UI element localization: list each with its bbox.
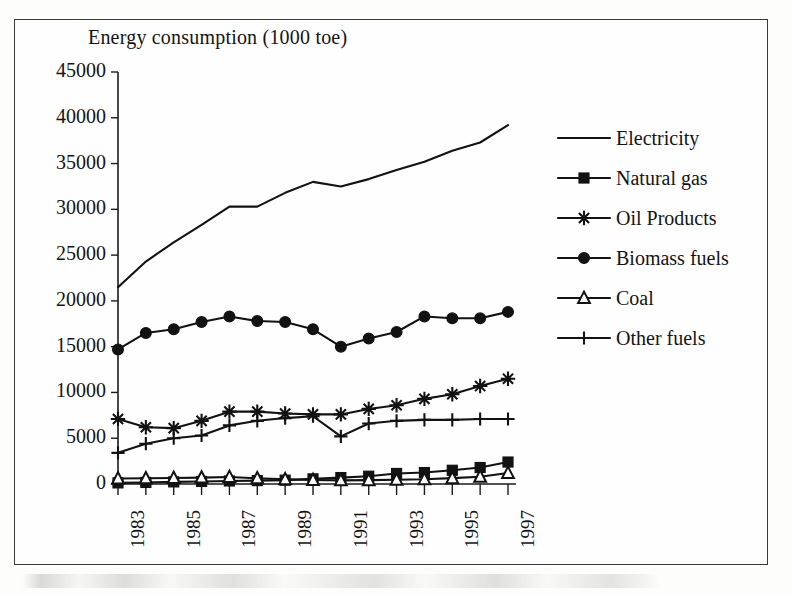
legend-item-label: Electricity — [612, 127, 699, 150]
marker-triangle — [502, 467, 514, 478]
marker-circle — [113, 344, 124, 355]
series-line — [118, 125, 508, 287]
scan-artifact — [22, 574, 662, 588]
y-tick-label: 30000 — [20, 196, 106, 219]
marker-asterisk — [139, 420, 153, 434]
x-tick-label: 1987 — [238, 510, 260, 548]
marker-asterisk — [501, 372, 515, 386]
x-tick-label: 1995 — [461, 510, 483, 548]
marker-asterisk — [389, 398, 403, 412]
marker-circle — [391, 327, 402, 338]
series-oil-products — [111, 372, 515, 436]
series-biomass-fuels — [113, 306, 514, 354]
series-group — [111, 125, 515, 488]
marker-plus — [195, 429, 208, 442]
marker-circle — [308, 324, 319, 335]
marker-circle — [224, 311, 235, 322]
legend-marker-icon — [556, 127, 612, 149]
marker-circle — [419, 311, 430, 322]
legend-item-electricity[interactable]: Electricity — [556, 118, 766, 158]
legend-marker-icon — [556, 327, 612, 349]
marker-circle — [363, 333, 374, 344]
marker-asterisk — [111, 412, 125, 426]
legend-key-icon — [556, 247, 612, 269]
y-tick-label: 40000 — [20, 105, 106, 128]
figure-root: Energy consumption (1000 toe) 0500010000… — [0, 0, 792, 594]
x-tick-label: 1997 — [517, 510, 539, 548]
marker-plus — [501, 412, 514, 425]
marker-circle — [168, 324, 179, 335]
series-electricity — [118, 125, 508, 287]
chart-legend: ElectricityNatural gasOil ProductsBiomas… — [556, 118, 766, 358]
y-tick-label: 5000 — [20, 425, 106, 448]
marker-plus — [111, 446, 124, 459]
marker-circle — [140, 328, 151, 339]
marker-circle — [503, 306, 514, 317]
marker-plus — [446, 413, 459, 426]
marker-plus — [390, 414, 403, 427]
marker-circle — [579, 253, 590, 264]
legend-marker-icon — [556, 207, 612, 229]
y-tick-label: 20000 — [20, 288, 106, 311]
marker-asterisk — [417, 392, 431, 406]
y-tick-label: 35000 — [20, 151, 106, 174]
legend-item-other-fuels[interactable]: Other fuels — [556, 318, 766, 358]
legend-item-biomass-fuels[interactable]: Biomass fuels — [556, 238, 766, 278]
x-tick-label: 1989 — [294, 510, 316, 548]
legend-item-oil-products[interactable]: Oil Products — [556, 198, 766, 238]
y-tick-label: 15000 — [20, 334, 106, 357]
legend-key-icon — [556, 167, 612, 189]
legend-key-icon — [556, 207, 612, 229]
legend-key-icon — [556, 327, 612, 349]
legend-item-coal[interactable]: Coal — [556, 278, 766, 318]
marker-plus — [577, 331, 590, 344]
x-tick-label: 1985 — [183, 510, 205, 548]
marker-asterisk — [334, 407, 348, 421]
legend-item-label: Coal — [612, 287, 654, 310]
marker-asterisk — [362, 402, 376, 416]
marker-circle — [335, 341, 346, 352]
marker-circle — [280, 317, 291, 328]
legend-item-label: Natural gas — [612, 167, 708, 190]
marker-plus — [139, 437, 152, 450]
x-tick-label: 1993 — [406, 510, 428, 548]
marker-circle — [447, 313, 458, 324]
y-tick-label: 45000 — [20, 59, 106, 82]
marker-circle — [475, 313, 486, 324]
legend-item-natural-gas[interactable]: Natural gas — [556, 158, 766, 198]
legend-item-label: Other fuels — [612, 327, 705, 350]
legend-marker-icon — [556, 167, 612, 189]
marker-plus — [474, 412, 487, 425]
series-other-fuels — [111, 410, 514, 460]
marker-plus — [223, 419, 236, 432]
marker-asterisk — [473, 379, 487, 393]
marker-circle — [196, 317, 207, 328]
marker-square — [579, 173, 589, 183]
y-tick-label: 10000 — [20, 379, 106, 402]
marker-plus — [418, 413, 431, 426]
legend-marker-icon — [556, 247, 612, 269]
legend-item-label: Oil Products — [612, 207, 717, 230]
x-tick-label: 1991 — [350, 510, 372, 548]
y-tick-label: 0 — [20, 471, 106, 494]
legend-key-icon — [556, 287, 612, 309]
marker-asterisk — [577, 211, 591, 225]
legend-key-icon — [556, 127, 612, 149]
marker-circle — [252, 316, 263, 327]
x-tick-label: 1983 — [127, 510, 149, 548]
legend-item-label: Biomass fuels — [612, 247, 729, 270]
marker-asterisk — [194, 414, 208, 428]
marker-plus — [362, 417, 375, 430]
marker-asterisk — [445, 387, 459, 401]
legend-marker-icon — [556, 287, 612, 309]
marker-asterisk — [222, 404, 236, 418]
y-tick-label: 25000 — [20, 242, 106, 265]
